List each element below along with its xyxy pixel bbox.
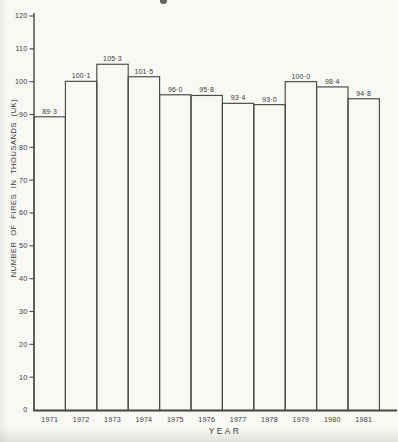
bar-value-label: 93·4 xyxy=(231,94,246,101)
x-tick-label: 1980 xyxy=(324,415,341,424)
y-tick-label: 50 xyxy=(19,241,27,250)
bar-value-label: 89·3 xyxy=(42,108,57,115)
y-tick-label: 110 xyxy=(15,44,27,53)
bar-chart: 010203040506070809010011012089·31971100·… xyxy=(0,0,398,442)
y-tick-label: 30 xyxy=(19,307,27,316)
y-tick-label: 120 xyxy=(15,11,28,20)
bar xyxy=(191,95,222,410)
x-tick-label: 1973 xyxy=(104,415,121,424)
x-tick-label: 1976 xyxy=(198,415,215,424)
bar-value-label: 96·0 xyxy=(168,86,183,93)
bar xyxy=(97,64,128,410)
x-tick-label: 1978 xyxy=(261,415,278,424)
x-axis-title: YEAR xyxy=(209,426,242,436)
bar xyxy=(34,117,65,411)
bar-value-label: 100·1 xyxy=(72,72,91,79)
y-tick-label: 60 xyxy=(19,208,27,217)
scanned-chart-page: 010203040506070809010011012089·31971100·… xyxy=(0,0,398,442)
bar xyxy=(222,103,253,410)
bar-value-label: 105·3 xyxy=(103,55,122,62)
y-tick-label: 40 xyxy=(19,274,27,283)
bar-value-label: 93·0 xyxy=(262,96,277,103)
y-tick-label: 80 xyxy=(19,143,27,152)
x-tick-label: 1972 xyxy=(73,415,90,424)
bar-value-label: 101·5 xyxy=(134,68,153,75)
bar xyxy=(348,99,379,411)
y-tick-label: 20 xyxy=(19,340,27,349)
bar-value-label: 98·4 xyxy=(325,78,340,85)
bar xyxy=(254,105,285,411)
y-tick-label: 90 xyxy=(19,110,27,119)
x-tick-label: 1971 xyxy=(41,415,58,424)
y-tick-label: 0 xyxy=(23,405,27,414)
x-tick-label: 1981 xyxy=(355,415,372,424)
y-tick-label: 70 xyxy=(19,176,27,185)
y-tick-label: 10 xyxy=(19,373,27,382)
bar xyxy=(160,95,191,411)
bar xyxy=(65,81,96,410)
y-tick-label: 100 xyxy=(15,77,28,86)
bar xyxy=(285,82,316,411)
bar xyxy=(317,87,348,411)
x-tick-label: 1977 xyxy=(230,415,247,424)
bar-value-label: 95·8 xyxy=(199,86,214,93)
x-tick-label: 1974 xyxy=(136,415,153,424)
bar xyxy=(128,77,159,411)
bar-value-label: 100·0 xyxy=(291,73,310,80)
y-axis-title: NUMBER OF FIRES IN THOUSANDS (UK) xyxy=(9,99,18,277)
bar-value-label: 94·8 xyxy=(356,90,371,97)
x-tick-label: 1975 xyxy=(167,415,184,424)
x-tick-label: 1979 xyxy=(293,415,310,424)
